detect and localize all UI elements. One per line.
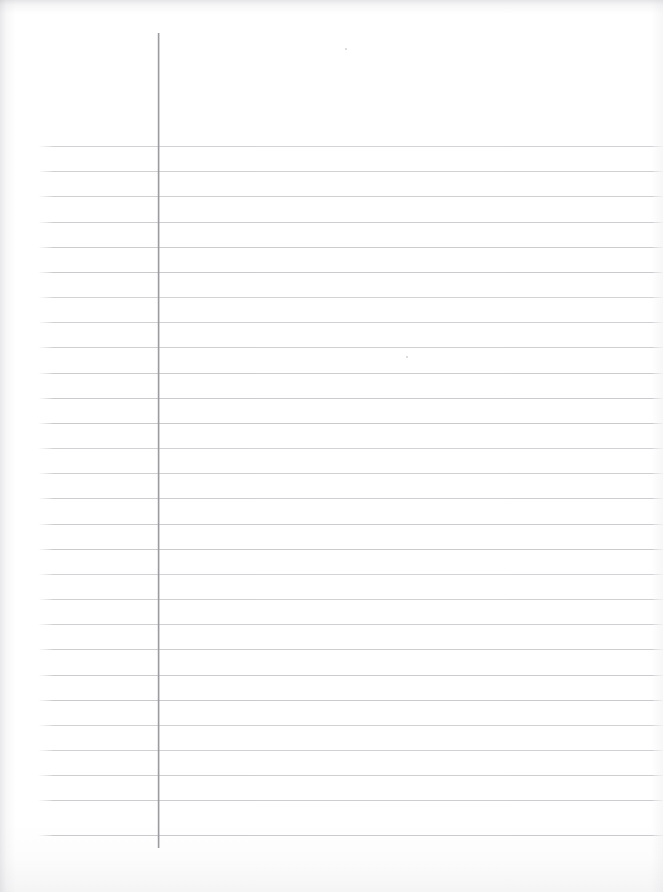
rule-line: [52, 448, 653, 449]
rule-line: [52, 700, 653, 701]
rule-line: [52, 473, 653, 474]
speck-mid: [406, 356, 408, 358]
rule-line: [52, 322, 653, 323]
rule-line: [52, 247, 653, 248]
rule-line: [52, 423, 653, 424]
rule-line: [52, 574, 653, 575]
rule-line: [52, 775, 653, 776]
rule-line: [52, 624, 653, 625]
rule-line: [52, 498, 653, 499]
rule-line: [52, 725, 653, 726]
rule-line: [52, 675, 653, 676]
rule-line: [52, 549, 653, 550]
rule-line: [52, 800, 653, 801]
rule-line: [52, 297, 653, 298]
scanned-page: [0, 0, 663, 892]
rule-line: [52, 373, 653, 374]
vertical-margin-rule: [158, 33, 159, 848]
rule-line: [52, 347, 653, 348]
rule-line: [52, 196, 653, 197]
speck-upper: [345, 48, 347, 50]
rule-line: [52, 398, 653, 399]
rule-line: [52, 750, 653, 751]
paper-surface: [0, 0, 663, 892]
rule-line: [52, 835, 653, 836]
rule-line: [52, 171, 653, 172]
rule-line: [52, 524, 653, 525]
rule-line: [52, 146, 653, 147]
rule-line: [52, 599, 653, 600]
rule-line: [52, 272, 653, 273]
rule-line: [52, 649, 653, 650]
rule-line: [52, 222, 653, 223]
